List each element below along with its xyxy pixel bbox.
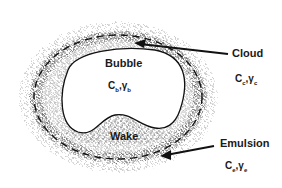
bubble-label: Bubble [105,57,142,69]
wake-label: Wake [110,130,138,142]
bubble-symbol: Cb,γb [108,80,131,93]
cloud-label: Cloud [232,47,263,59]
emulsion-label: Emulsion [220,137,270,149]
diagram: Bubble Cb,γb Wake Cloud Cc,γc Emulsion C… [0,0,282,188]
cloud-symbol: Cc,γc [235,73,257,86]
emulsion-symbol: Ce,γe [225,160,247,173]
